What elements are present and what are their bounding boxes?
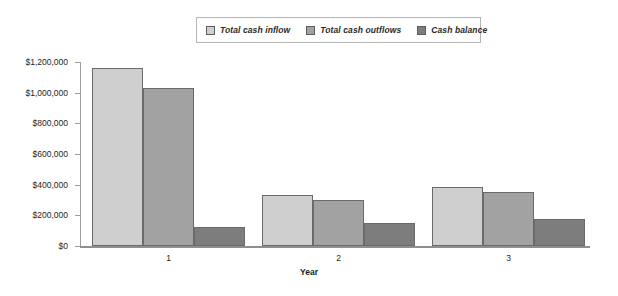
y-axis-labels: $0$200,000$400,000$600,000$800,000$1,000… bbox=[0, 62, 74, 248]
bar-1-series-3[interactable] bbox=[194, 227, 245, 246]
x-axis-title: Year bbox=[0, 268, 618, 277]
y-axis-tick bbox=[75, 185, 80, 186]
y-axis-tick bbox=[75, 246, 80, 247]
bar-2-series-2[interactable] bbox=[313, 200, 364, 246]
bar-3-series-1[interactable] bbox=[432, 187, 483, 246]
y-axis-tick-label: $800,000 bbox=[33, 119, 68, 128]
x-axis-category-label: 3 bbox=[506, 254, 511, 263]
bar-1-series-1[interactable] bbox=[92, 68, 143, 246]
x-axis-line bbox=[80, 246, 590, 248]
y-axis-tick bbox=[75, 93, 80, 94]
legend-swatch-icon-cash-balance bbox=[417, 26, 426, 35]
y-axis-tick bbox=[75, 62, 80, 63]
chart-legend: Total cash inflow Total cash outflows Ca… bbox=[196, 17, 481, 43]
y-axis-line bbox=[80, 62, 81, 246]
legend-swatch-icon-total-cash-inflow bbox=[206, 26, 215, 35]
legend-item-cash-balance[interactable]: Cash balance bbox=[417, 25, 487, 35]
y-axis-tick-label: $400,000 bbox=[33, 180, 68, 189]
bar-3-series-2[interactable] bbox=[483, 192, 534, 246]
legend-label-total-cash-inflow: Total cash inflow bbox=[220, 25, 290, 35]
legend-item-total-cash-outflows[interactable]: Total cash outflows bbox=[306, 25, 401, 35]
y-axis-tick-label: $200,000 bbox=[33, 211, 68, 220]
bar-2-series-3[interactable] bbox=[364, 223, 415, 246]
y-axis-tick bbox=[75, 123, 80, 124]
bar-2-series-1[interactable] bbox=[262, 195, 313, 246]
legend-label-total-cash-outflows: Total cash outflows bbox=[320, 25, 401, 35]
plot-area bbox=[80, 62, 590, 248]
y-axis-tick-label: $0 bbox=[59, 242, 68, 251]
y-axis-tick bbox=[75, 215, 80, 216]
x-axis-category-label: 2 bbox=[336, 254, 341, 263]
y-axis-tick-label: $1,200,000 bbox=[25, 58, 68, 67]
legend-label-cash-balance: Cash balance bbox=[431, 25, 487, 35]
bar-3-series-3[interactable] bbox=[534, 219, 585, 246]
y-axis-tick-label: $1,000,000 bbox=[25, 88, 68, 97]
x-axis-category-label: 1 bbox=[166, 254, 171, 263]
bar-1-series-2[interactable] bbox=[143, 88, 194, 246]
legend-swatch-icon-total-cash-outflows bbox=[306, 26, 315, 35]
y-axis-tick-label: $600,000 bbox=[33, 150, 68, 159]
bar-chart: Total cash inflow Total cash outflows Ca… bbox=[0, 0, 618, 296]
y-axis-tick bbox=[75, 154, 80, 155]
legend-item-total-cash-inflow[interactable]: Total cash inflow bbox=[206, 25, 290, 35]
